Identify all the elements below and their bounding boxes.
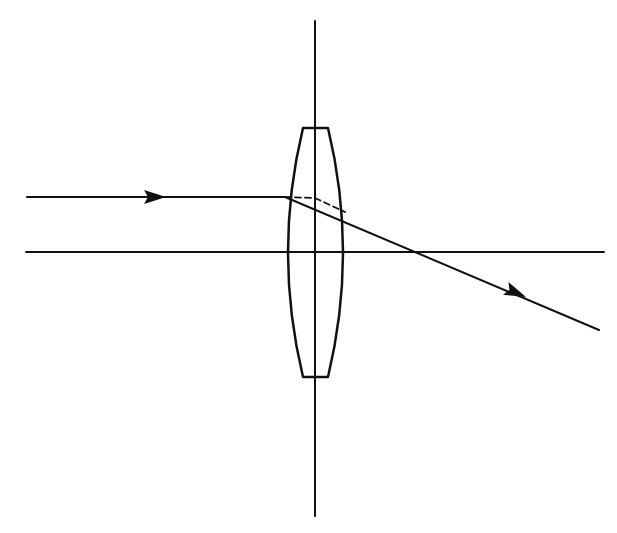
refracted-ray-arrow-icon (503, 282, 529, 303)
lens-ray-diagram (0, 0, 617, 533)
refracted-ray (285, 197, 599, 330)
